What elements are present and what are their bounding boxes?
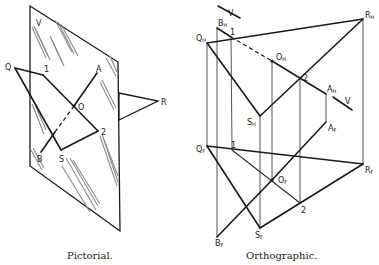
front-line-o-b	[217, 180, 272, 237]
label-1h: 1	[230, 28, 235, 37]
label-sh: SH	[247, 118, 256, 127]
label-bh: BH	[218, 19, 228, 28]
piercing-point-o	[72, 104, 75, 107]
label-sf: SF	[255, 231, 263, 240]
label-2f: 2	[301, 206, 306, 215]
diagram-canvas: V Q 1 A O R 2 B S Pictorial.	[0, 0, 379, 265]
front-line-1-2	[232, 150, 300, 203]
pictorial-view: V Q 1 A O R 2 B S Pictorial.	[5, 6, 167, 261]
label-1f: 1	[231, 141, 236, 150]
label-2h: 2	[303, 74, 308, 83]
label-a: A	[96, 65, 102, 74]
projector-1	[231, 37, 232, 150]
point-of	[270, 178, 273, 181]
plane-edge-visible	[272, 61, 326, 94]
front-edge-q-s	[207, 146, 260, 228]
label-v-top: V	[228, 9, 234, 18]
caption-orthographic: Orthographic.	[246, 250, 317, 261]
label-ah: AH	[327, 85, 336, 94]
orthographic-view: V BH 1 QH RH OH 2 AH V SH AF QF 1 RF OF …	[196, 6, 375, 261]
label-b: B	[37, 155, 43, 164]
front-line-a-o	[272, 122, 326, 180]
label-q: Q	[5, 63, 11, 72]
top-edge-q-s	[207, 43, 260, 116]
label-rf: RF	[365, 166, 374, 175]
label-r: R	[161, 98, 167, 107]
plane-edge-hidden	[231, 37, 272, 61]
plane-edge-v-main	[217, 28, 231, 37]
front-edge-s-r	[260, 164, 363, 228]
label-bf: BF	[215, 239, 224, 248]
label-of: OF	[278, 176, 287, 185]
label-qh: QH	[196, 34, 206, 43]
label-rh: RH	[365, 11, 375, 20]
label-af: AF	[328, 124, 336, 133]
label-v-right: V	[345, 97, 351, 106]
label-qf: QF	[196, 145, 205, 154]
label-oh: OH	[276, 53, 286, 62]
triangle-r-part	[119, 93, 158, 120]
label-plane-v: V	[36, 19, 42, 28]
label-s: S	[59, 155, 64, 164]
label-o: O	[78, 103, 84, 112]
label-1: 1	[44, 65, 49, 74]
label-2: 2	[101, 128, 106, 137]
caption-pictorial: Pictorial.	[67, 250, 113, 261]
